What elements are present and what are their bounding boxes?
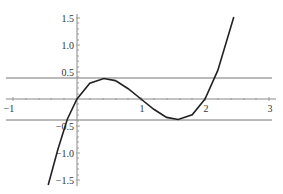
x-tick-label: 2 <box>204 103 209 114</box>
x-tick-label: 3 <box>268 103 273 114</box>
y-tick-label: 0.5 <box>62 67 75 78</box>
y-tick-label: 1.0 <box>62 40 75 51</box>
x-axis: −1 1 2 3 <box>4 97 276 114</box>
y-tick-label: −1.5 <box>56 175 74 186</box>
cubic-function-plot: −1 1 2 3 1.5 1.0 0.5 <box>0 0 283 194</box>
x-tick-label: 1 <box>140 103 145 114</box>
y-tick-label: 1.5 <box>62 13 75 24</box>
x-tick-label: −1 <box>4 103 15 114</box>
